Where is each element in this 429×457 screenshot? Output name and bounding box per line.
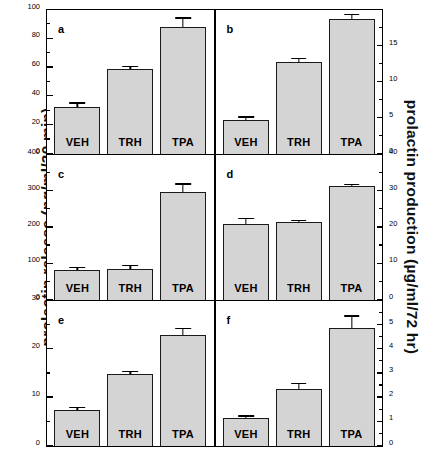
plot-area-b: VEHTRHTPA (216, 10, 383, 154)
bar-a-tpa[interactable]: TPA (160, 27, 206, 154)
error-bar-e-veh (77, 408, 78, 409)
error-bar-f-veh (245, 417, 246, 418)
bar-c-trh[interactable]: TRH (107, 269, 153, 300)
bar-label-f-tpa: TPA (330, 428, 374, 440)
bar-d-trh[interactable]: TRH (276, 222, 322, 300)
y-tick-label-a-60: 60 (32, 60, 40, 68)
y-tick-minor-d (379, 208, 382, 209)
bar-f-veh[interactable]: VEH (223, 418, 269, 446)
bar-label-c-veh: VEH (55, 282, 99, 294)
error-bar-d-tpa (351, 185, 352, 186)
bar-group-e-tpa: TPA (160, 301, 206, 446)
y-tick-c-300 (47, 190, 53, 191)
y-tick-label-b-5: 5 (389, 111, 393, 119)
error-bar-f-trh (298, 384, 299, 389)
y-tick-a-80 (47, 38, 53, 39)
plot-area-e: VEHTRHTPA (47, 301, 214, 446)
error-cap-f-veh (238, 415, 254, 416)
y-tick-label-d-40: 40 (389, 148, 397, 156)
bar-series-a: VEHTRHTPA (51, 10, 210, 154)
y-tick-f-3 (377, 372, 383, 373)
y-tick-d-20 (377, 226, 383, 227)
y-tick-label-d-20: 20 (389, 220, 397, 228)
error-cap-e-tpa (175, 328, 191, 329)
bar-group-d-tpa: TPA (329, 155, 375, 300)
y-tick-label-e-20: 20 (32, 342, 40, 350)
y-tick-a-40 (47, 95, 53, 96)
y-tick-label-f-1: 1 (389, 415, 393, 423)
bar-e-veh[interactable]: VEH (54, 410, 100, 446)
y-tick-minor-c (47, 208, 50, 209)
y-tick-f-4 (377, 348, 383, 349)
bar-group-d-veh: VEH (223, 155, 269, 300)
y-tick-label-a-20: 20 (32, 118, 40, 126)
bar-e-tpa[interactable]: TPA (160, 335, 206, 446)
error-bar-a-tpa (182, 19, 183, 28)
y-tick-d-0 (377, 299, 383, 300)
y-tick-minor-d (379, 172, 382, 173)
y-tick-minor-f (379, 384, 382, 385)
y-tick-minor-b (379, 99, 382, 100)
bar-a-trh[interactable]: TRH (107, 69, 153, 154)
error-bar-b-tpa (351, 15, 352, 19)
panel-b: bVEHTRHTPA051015 (215, 9, 384, 155)
bar-d-tpa[interactable]: TPA (329, 186, 375, 300)
bar-a-veh[interactable]: VEH (54, 107, 100, 154)
error-bar-c-trh (130, 266, 131, 269)
bar-c-tpa[interactable]: TPA (160, 192, 206, 300)
panel-grid: aVEHTRHTPA020406080100 bVEHTRHTPA051015 … (46, 9, 383, 447)
y-tick-label-f-3: 3 (389, 366, 393, 374)
error-bar-e-tpa (182, 329, 183, 335)
error-cap-a-trh (122, 66, 138, 67)
y-tick-minor-e (47, 324, 50, 325)
bar-f-tpa[interactable]: TPA (329, 328, 375, 446)
panel-e: eVEHTRHTPA0102030 (46, 301, 215, 447)
bar-group-c-tpa: TPA (160, 155, 206, 300)
y-tick-label-e-30: 30 (32, 294, 40, 302)
bar-group-f-veh: VEH (223, 301, 269, 446)
y-tick-a-20 (47, 124, 53, 125)
bar-label-b-veh: VEH (224, 136, 268, 148)
y-tick-label-f-0: 0 (389, 439, 393, 447)
y-tick-e-10 (47, 396, 53, 397)
bar-series-e: VEHTRHTPA (51, 301, 210, 446)
bar-b-veh[interactable]: VEH (223, 120, 269, 154)
y-tick-minor-d (379, 281, 382, 282)
y-tick-minor-a (47, 138, 50, 139)
bar-group-a-trh: TRH (107, 10, 153, 154)
bar-c-veh[interactable]: VEH (54, 270, 100, 300)
y-tick-e-0 (47, 445, 53, 446)
error-bar-a-veh (77, 104, 78, 108)
bar-d-veh[interactable]: VEH (223, 224, 269, 300)
bar-b-trh[interactable]: TRH (276, 62, 322, 154)
bar-label-d-veh: VEH (224, 282, 268, 294)
bar-b-tpa[interactable]: TPA (329, 19, 375, 154)
error-bar-b-veh (245, 118, 246, 121)
y-tick-minor-a (47, 110, 50, 111)
error-cap-c-trh (122, 265, 138, 266)
y-tick-minor-b (379, 135, 382, 136)
bar-label-d-trh: TRH (277, 282, 321, 294)
y-tick-f-5 (377, 324, 383, 325)
error-cap-d-veh (238, 218, 254, 219)
bar-group-b-trh: TRH (276, 10, 322, 154)
y-tick-d-30 (377, 190, 383, 191)
figure-panel-grid: prolactin release (ng/ml/30 min) prolact… (0, 0, 429, 457)
error-cap-a-veh (70, 102, 86, 103)
bar-group-f-trh: TRH (276, 301, 322, 446)
y-tick-minor-f (379, 409, 382, 410)
y-tick-minor-b (379, 27, 382, 28)
bar-f-trh[interactable]: TRH (276, 389, 322, 446)
bar-e-trh[interactable]: TRH (107, 374, 153, 447)
bar-group-b-veh: VEH (223, 10, 269, 154)
y-tick-label-e-0: 0 (36, 439, 40, 447)
y-tick-label-d-0: 0 (389, 293, 393, 301)
error-bar-f-tpa (351, 317, 352, 328)
y-tick-minor-a (47, 81, 50, 82)
bar-label-c-trh: TRH (108, 282, 152, 294)
bar-group-d-trh: TRH (276, 155, 322, 300)
bar-series-b: VEHTRHTPA (220, 10, 379, 154)
error-bar-c-veh (77, 268, 78, 269)
y-tick-minor-e (47, 421, 50, 422)
plot-area-c: VEHTRHTPA (47, 155, 214, 300)
